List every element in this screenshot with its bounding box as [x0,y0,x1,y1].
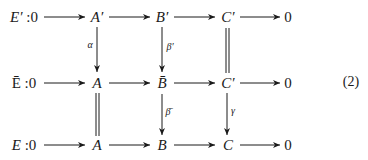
node-c: C [223,138,233,153]
node-b-bar: B̄ [157,76,166,91]
node-b: B [157,138,166,153]
label-beta-bar: β̄ [166,107,171,117]
node-zero-3: 0 [284,138,292,153]
node-a-mid: A [92,76,101,91]
node-a-bottom: A [92,138,101,153]
label-gamma: γ [231,106,235,116]
equation-number: (2) [343,74,359,90]
node-zero-2: 0 [284,76,292,91]
row1-label: E′ :0 [10,10,38,25]
row3-label: E :0 [12,138,37,153]
label-beta-prime: β′ [166,42,173,52]
node-b-prime: B′ [156,10,168,25]
arrows-layer [0,0,368,160]
row2-label: Ē :0 [12,76,37,91]
node-zero-1: 0 [284,10,292,25]
node-a-prime: A′ [91,10,103,25]
label-alpha: α [87,40,92,50]
node-c-prime-mid: C′ [221,76,234,91]
node-c-prime-top: C′ [221,10,234,25]
